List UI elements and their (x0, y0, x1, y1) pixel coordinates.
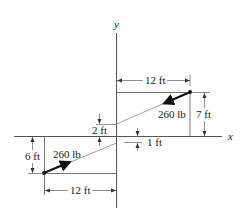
diagram-canvas: y x 12 ft 260 lb 7 ft 2 ft 1 ft 6 ft 260… (0, 0, 245, 224)
lower-offset-dim-label: 1 ft (147, 136, 162, 148)
upper-horizontal-dim-label: 12 ft (145, 74, 165, 86)
lower-vertical-dim-label: 6 ft (25, 150, 40, 162)
lower-force-label: 260 lb (53, 148, 81, 160)
lower-force-arrow (45, 162, 70, 173)
upper-force-arrow (164, 93, 189, 104)
upper-offset-dim-label: 2 ft (92, 124, 107, 136)
y-axis-label: y (113, 18, 119, 30)
upper-vertical-dim-label: 7 ft (196, 108, 211, 120)
upper-force-label: 260 lb (158, 108, 186, 120)
force-diagram: y x 12 ft 260 lb 7 ft 2 ft 1 ft 6 ft 260… (0, 0, 245, 224)
x-axis-label: x (227, 130, 233, 142)
lower-horizontal-dim-label: 12 ft (70, 184, 90, 196)
